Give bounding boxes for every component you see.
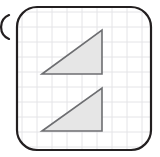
diagram-svg: Two congruent right triangles on a squar… — [0, 0, 160, 157]
figure-canvas: Two congruent right triangles on a squar… — [0, 0, 160, 157]
